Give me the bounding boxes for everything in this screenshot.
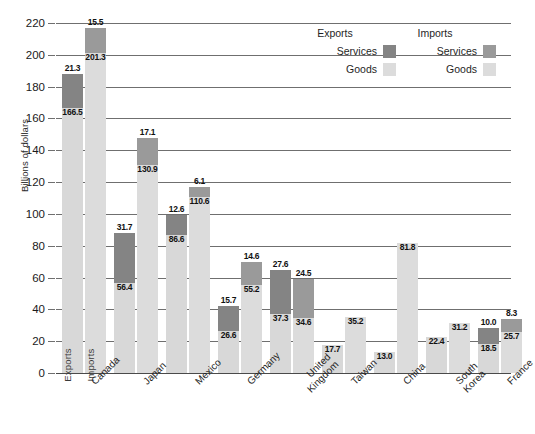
bar-segment-services[interactable]: 31.7 <box>114 233 135 283</box>
bar-value-label: 22.4 <box>429 336 445 346</box>
bar-segment-services[interactable]: 12.6 <box>166 215 187 235</box>
legend-item-imports-services: Services <box>396 45 496 58</box>
bar-value-label: 15.7 <box>221 295 237 305</box>
y-tick-mark <box>48 309 55 310</box>
y-tick-label: 0 <box>39 367 45 379</box>
legend-label-exports-goods: Goods <box>346 63 377 75</box>
bar-segment-goods[interactable]: 55.2 <box>241 285 262 373</box>
bar-inner-label: Exports <box>62 348 73 382</box>
bar[interactable]: 201.315.5Imports <box>85 28 106 373</box>
y-tick-mark <box>48 55 55 56</box>
bar-value-label: 26.6 <box>221 330 237 340</box>
bar-segment-services[interactable]: 27.6 <box>270 270 291 314</box>
bar-value-label: 86.6 <box>169 234 185 244</box>
bar-segment-goods[interactable]: 86.6 <box>166 235 187 373</box>
legend-header-imports: Imports <box>396 26 496 41</box>
bar-value-label: 31.7 <box>117 222 133 232</box>
y-tick-label: 40 <box>32 303 45 315</box>
bar-segment-goods[interactable]: 26.6 <box>218 331 239 373</box>
y-tick-label: 60 <box>32 272 45 284</box>
bar-segment-services[interactable]: 15.7 <box>218 306 239 331</box>
gridline <box>56 182 511 183</box>
gridline <box>56 373 511 374</box>
legend-label-imports-services: Services <box>437 45 477 57</box>
bar-value-label: 35.2 <box>348 316 364 326</box>
bar-value-label: 10.0 <box>481 317 497 327</box>
bar[interactable]: 86.612.6 <box>166 215 187 373</box>
y-tick-label: 100 <box>26 208 45 220</box>
bar-segment-goods[interactable]: 22.4 <box>426 337 447 373</box>
bar[interactable]: 56.431.7 <box>114 233 135 373</box>
bar-segment-services[interactable]: 10.0 <box>478 328 499 344</box>
y-tick-mark <box>48 87 55 88</box>
y-tick-label: 180 <box>26 81 45 93</box>
bar-value-label: 21.3 <box>65 63 81 73</box>
y-tick-mark <box>48 150 55 151</box>
y-tick-mark <box>48 182 55 183</box>
bar-segment-goods[interactable]: 201.3 <box>85 53 106 373</box>
bar[interactable]: 81.8 <box>397 243 418 373</box>
bar-value-label: 166.5 <box>62 107 82 117</box>
legend-header-exports: Exports <box>296 26 396 41</box>
legend-item-exports-goods: Goods <box>296 63 396 76</box>
legend-row-goods: Goods Goods <box>296 60 496 78</box>
legend-swatch-exports-goods <box>383 63 396 76</box>
bar[interactable]: 130.917.1 <box>137 138 158 373</box>
y-tick-label: 20 <box>32 335 45 347</box>
y-tick-mark <box>48 118 55 119</box>
bar-value-label: 15.5 <box>88 17 104 27</box>
bar-value-label: 31.2 <box>452 322 468 332</box>
bar-segment-services[interactable]: 15.5 <box>85 28 106 53</box>
y-tick-mark <box>48 341 55 342</box>
bar[interactable]: 34.624.5 <box>293 279 314 373</box>
bar[interactable]: 166.521.3Exports <box>62 74 83 373</box>
bar-segment-services[interactable]: 14.6 <box>241 262 262 285</box>
bar[interactable]: 18.510.0 <box>478 328 499 373</box>
legend-swatch-exports-services <box>383 45 396 58</box>
bar[interactable]: 22.4 <box>426 337 447 373</box>
bar-value-label: 37.3 <box>273 313 289 323</box>
y-tick-label: 220 <box>26 17 45 29</box>
bar-value-label: 201.3 <box>85 52 105 62</box>
y-tick-label: 160 <box>26 112 45 124</box>
bar-value-label: 8.3 <box>506 308 517 318</box>
bar-value-label: 55.2 <box>244 284 260 294</box>
legend-swatch-imports-services <box>483 45 496 58</box>
chart-legend: Exports Imports Services Services Goods … <box>296 24 496 78</box>
bar-value-label: 130.9 <box>137 164 157 174</box>
legend-headers: Exports Imports <box>296 24 496 42</box>
bar-value-label: 24.5 <box>296 268 312 278</box>
bar-value-label: 18.5 <box>481 343 497 353</box>
legend-item-exports-services: Services <box>296 45 396 58</box>
gridline <box>56 87 511 88</box>
y-tick-mark <box>48 278 55 279</box>
bar-segment-services[interactable]: 8.3 <box>501 319 522 332</box>
y-tick-label: 120 <box>26 176 45 188</box>
bar[interactable]: 110.66.1 <box>189 187 210 373</box>
bar-segment-services[interactable]: 21.3 <box>62 74 83 108</box>
bar-value-label: 56.4 <box>117 282 133 292</box>
y-tick-mark <box>48 214 55 215</box>
bar-value-label: 6.1 <box>194 176 205 186</box>
legend-header-imports-label: Imports <box>417 26 452 41</box>
bar-value-label: 110.6 <box>190 196 210 206</box>
bar-segment-goods[interactable]: 110.6 <box>189 197 210 373</box>
bar-segment-goods[interactable]: 166.5 <box>62 108 83 373</box>
bar-segment-goods[interactable]: 81.8 <box>397 243 418 373</box>
gridline <box>56 150 511 151</box>
bar[interactable]: 55.214.6 <box>241 262 262 373</box>
bar-segment-goods[interactable]: 130.9 <box>137 165 158 373</box>
bar-value-label: 17.1 <box>140 127 156 137</box>
y-tick-label: 140 <box>26 144 45 156</box>
bar-value-label: 14.6 <box>244 251 260 261</box>
y-tick-mark <box>48 246 55 247</box>
bar-segment-services[interactable]: 24.5 <box>293 279 314 318</box>
legend-swatch-imports-goods <box>483 63 496 76</box>
bar-value-label: 25.7 <box>504 331 520 341</box>
bar-segment-services[interactable]: 17.1 <box>137 138 158 165</box>
bar-value-label: 12.6 <box>169 204 185 214</box>
bar-segment-services[interactable]: 6.1 <box>189 187 210 197</box>
bar-value-label: 34.6 <box>296 317 312 327</box>
gridline <box>56 118 511 119</box>
